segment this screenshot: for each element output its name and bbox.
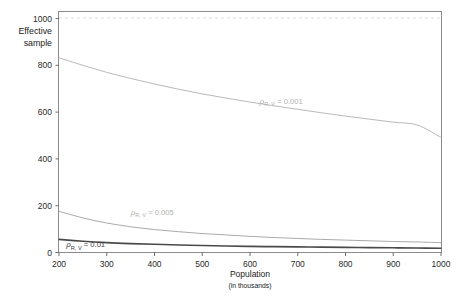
y-tick-label: 600 <box>38 107 52 117</box>
x-tick-label: 800 <box>338 259 352 269</box>
chart-figure: 02004006008001000 2003004005006007008009… <box>0 0 452 297</box>
x-tick-label: 600 <box>243 259 257 269</box>
x-axis-subtitle: (in thousands) <box>228 282 271 290</box>
x-tick-label: 200 <box>52 259 66 269</box>
x-tick-label: 1000 <box>432 259 451 269</box>
plot-frame <box>59 12 442 253</box>
y-axis-title-line2: sample <box>24 38 52 48</box>
y-tick-label: 200 <box>38 201 52 211</box>
x-tick-label: 900 <box>386 259 400 269</box>
x-tick-label: 400 <box>147 259 161 269</box>
x-tick-label: 500 <box>195 259 209 269</box>
y-tick-label: 0 <box>47 248 52 258</box>
x-tick-label: 700 <box>291 259 305 269</box>
y-axis-ticks: 02004006008001000 <box>33 14 59 258</box>
y-axis-title-line1: Effective <box>18 26 52 36</box>
y-tick-label: 1000 <box>33 14 52 24</box>
x-axis-ticks: 2003004005006007008009001000 <box>52 253 451 269</box>
y-tick-label: 800 <box>38 60 52 70</box>
chart-svg: 02004006008001000 2003004005006007008009… <box>0 0 452 297</box>
x-axis-title: Population <box>230 269 270 279</box>
x-tick-label: 300 <box>100 259 114 269</box>
y-tick-label: 400 <box>38 154 52 164</box>
